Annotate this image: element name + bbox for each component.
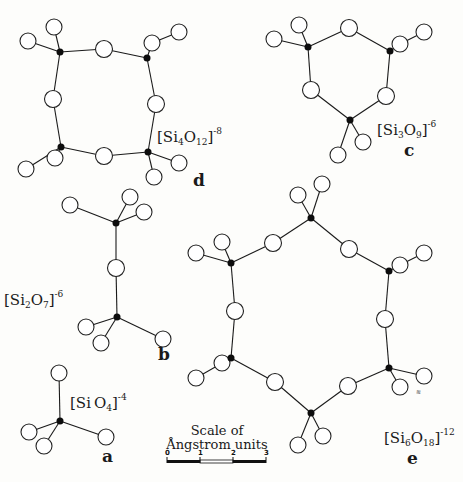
formula-label-si4o12: [Si4O12]-8 — [157, 127, 222, 147]
silicon-atom — [113, 220, 120, 227]
oxygen-atom — [36, 438, 52, 454]
oxygen-atom — [314, 176, 330, 192]
scale-title-line1: Scale of — [165, 424, 269, 438]
oxygen-atom — [62, 197, 78, 213]
atoms-d — [18, 19, 187, 185]
bridging-oxygen-atom — [265, 235, 282, 252]
bridging-oxygen-atom — [96, 41, 113, 58]
bridging-oxygen-atom — [45, 91, 62, 108]
bridging-oxygen-atom — [303, 82, 320, 99]
silicon-atom — [308, 215, 315, 222]
scale-segment-1-2 — [200, 460, 233, 463]
silicate-structures-diagram: [Si O4]-4 a [Si2O7]-6 b [Si3O9]-6 c [Si4… — [0, 0, 463, 482]
oxygen-atom — [355, 134, 371, 150]
structure-letter-d: d — [193, 172, 205, 189]
scale-title: Scale of Ångstrom units — [165, 424, 269, 452]
scale-bar — [167, 457, 266, 463]
oxygen-atom — [416, 368, 432, 384]
oxygen-atom — [78, 319, 94, 335]
oxygen-atom — [18, 161, 34, 177]
silicon-atom — [386, 268, 393, 275]
scale-tick-label: 0 — [165, 449, 170, 457]
formula-label-si2o7: [Si2O7]-6 — [4, 290, 63, 310]
formula-label-si6o18: [Si6O18]-12 — [384, 428, 455, 448]
bridging-oxygen-atom — [377, 311, 394, 328]
structure-letter-e: e — [407, 450, 418, 467]
silicon-atom — [308, 410, 315, 417]
bridging-oxygen-atom — [341, 20, 358, 37]
scale-tick-label: 2 — [231, 449, 236, 457]
silicon-atom — [228, 260, 235, 267]
silicon-atom — [386, 365, 393, 372]
oxygen-atom — [392, 36, 408, 52]
scale-title-line2: Ångstrom units — [165, 438, 269, 452]
oxygen-atom — [188, 245, 204, 261]
silicon-atom — [145, 149, 152, 156]
silicon-atom — [58, 144, 65, 151]
silicon-atom — [387, 48, 394, 55]
scale-tick-label: 3 — [264, 449, 269, 457]
oxygen-atom — [416, 24, 432, 40]
bridging-oxygen-atom — [96, 148, 113, 165]
oxygen-atom — [146, 169, 162, 185]
oxygen-atom — [315, 428, 331, 444]
oxygen-atom — [51, 365, 67, 381]
oxygen-atom — [122, 189, 138, 205]
silicon-atom — [57, 49, 64, 56]
oxygen-atom — [136, 204, 152, 220]
oxygen-atom — [47, 150, 63, 166]
bridging-oxygen-atom — [378, 88, 395, 105]
bridging-oxygen-atom — [108, 260, 125, 277]
oxygen-atom — [291, 17, 307, 33]
silicon-atom — [228, 355, 235, 362]
bridging-oxygen-atom — [341, 241, 358, 258]
silicon-atom — [144, 55, 151, 62]
oxygen-atom — [20, 33, 36, 49]
bridging-oxygen-atom — [227, 303, 244, 320]
structure-letter-b: b — [158, 346, 170, 363]
oxygen-atom — [46, 19, 62, 35]
scale-segment-0-1 — [167, 460, 200, 463]
bridging-oxygen-atom — [148, 96, 165, 113]
oxygen-atom — [144, 35, 160, 51]
silicon-atom — [57, 418, 64, 425]
oxygen-atom — [188, 370, 204, 386]
oxygen-atom — [392, 379, 408, 395]
atoms-layer — [18, 17, 432, 454]
oxygen-atom — [290, 437, 306, 453]
scale-tick-label: 1 — [198, 449, 203, 457]
silicon-atom — [114, 314, 121, 321]
bridging-oxygen-atom — [340, 378, 357, 395]
oxygen-atom — [98, 429, 114, 445]
oxygen-atom — [392, 257, 408, 273]
structure-letter-c: c — [404, 142, 414, 159]
oxygen-atom — [21, 424, 37, 440]
atoms-e — [188, 176, 432, 453]
atoms-b — [62, 189, 171, 351]
scale-segment-2-3 — [233, 460, 266, 463]
structure-letter-a: a — [102, 448, 113, 465]
oxygen-atom — [171, 155, 187, 171]
oxygen-atom — [266, 31, 282, 47]
formula-label-sio4: [Si O4]-4 — [70, 393, 127, 413]
silicon-atom — [347, 117, 354, 124]
oxygen-atom — [214, 234, 230, 250]
oxygen-atom — [290, 187, 306, 203]
oxygen-atom — [171, 24, 187, 40]
oxygen-atom — [330, 147, 346, 163]
small-mark: ≋ — [416, 388, 421, 395]
formula-label-si3o9: [Si3O9]-6 — [377, 120, 436, 140]
silicon-atom — [305, 44, 312, 51]
bridging-oxygen-atom — [267, 374, 284, 391]
oxygen-atom — [416, 245, 432, 261]
oxygen-atom — [93, 335, 109, 351]
